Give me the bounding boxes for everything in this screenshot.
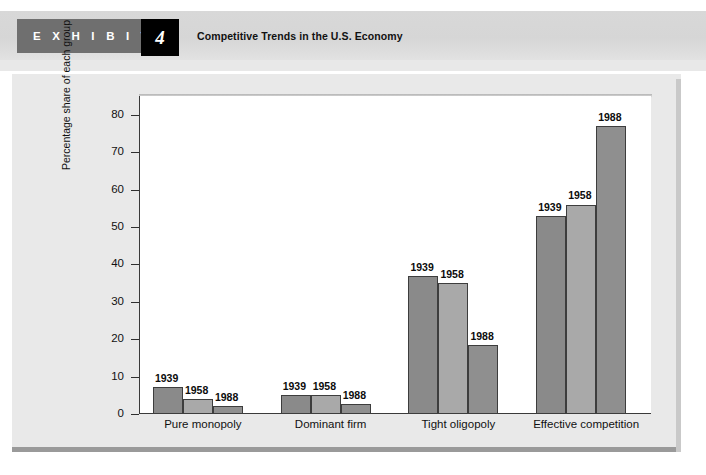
bar-value-label: 1988 <box>598 111 621 123</box>
y-axis-tick-label: 50 <box>96 220 124 232</box>
y-axis-tick-label: 30 <box>96 295 124 307</box>
bar-tight-oligopoly-1958 <box>438 283 468 414</box>
y-axis-tick <box>131 302 139 303</box>
bar-value-label: 1939 <box>283 380 306 392</box>
exhibit-title: Competitive Trends in the U.S. Economy <box>197 30 403 42</box>
bar-pure-monopoly-1939 <box>153 387 183 414</box>
x-axis-categories: Pure monopolyDominant firmTight oligopol… <box>139 418 651 438</box>
bar-dominant-firm-1939 <box>281 395 311 414</box>
y-axis-tick-label: 70 <box>96 145 124 157</box>
bar-value-label: 1958 <box>313 380 336 392</box>
bar-value-label: 1988 <box>343 389 366 401</box>
y-axis-tick <box>131 115 139 116</box>
exhibit-page: E X H I B I T 4 Competitive Trends in th… <box>0 0 706 475</box>
bar-value-label: 1988 <box>470 330 493 342</box>
bar-value-label: 1939 <box>410 261 433 273</box>
y-axis-tick-label: 20 <box>96 332 124 344</box>
y-axis-tick <box>131 377 139 378</box>
header-band-lower <box>0 60 706 71</box>
y-axis-tick <box>131 414 139 415</box>
bar-value-label: 1958 <box>440 268 463 280</box>
y-axis-tick <box>131 152 139 153</box>
bar-pure-monopoly-1958 <box>183 399 213 414</box>
y-axis-tick <box>131 339 139 340</box>
panel-right-shadow <box>676 79 681 452</box>
bar-tight-oligopoly-1988 <box>468 345 498 414</box>
bar-value-label: 1939 <box>155 372 178 384</box>
bar-effective-competition-1939 <box>536 216 566 414</box>
x-axis-category-label: Tight oligopoly <box>395 418 523 430</box>
bar-pure-monopoly-1988 <box>213 406 243 414</box>
bar-value-label: 1958 <box>185 384 208 396</box>
panel-bottom-shadow <box>12 447 681 452</box>
y-axis-tick-label: 80 <box>96 108 124 120</box>
y-axis-title: Percentage share of each group <box>60 0 72 170</box>
x-axis-category-label: Dominant firm <box>267 418 395 430</box>
bar-effective-competition-1958 <box>566 205 596 415</box>
x-axis-category-label: Pure monopoly <box>139 418 267 430</box>
bar-value-label: 1939 <box>538 201 561 213</box>
bar-dominant-firm-1988 <box>341 404 371 414</box>
bar-dominant-firm-1958 <box>311 395 341 414</box>
exhibit-kicker-label: E X H I B I T <box>29 30 152 42</box>
y-axis-tick-label: 60 <box>96 183 124 195</box>
exhibit-number-badge: 4 <box>141 19 179 56</box>
y-axis-tick-label: 40 <box>96 257 124 269</box>
y-axis-tick <box>131 264 139 265</box>
exhibit-number-label: 4 <box>155 27 165 49</box>
bar-value-label: 1958 <box>568 189 591 201</box>
bar-value-label: 1988 <box>215 391 238 403</box>
y-axis-tick-label: 0 <box>96 407 124 419</box>
x-axis-category-label: Effective competition <box>522 418 650 430</box>
bar-effective-competition-1988 <box>596 126 626 414</box>
bar-tight-oligopoly-1939 <box>408 276 438 414</box>
y-axis-tick <box>131 190 139 191</box>
y-axis-tick <box>131 227 139 228</box>
bars-layer: 1939195819881939195819881939195819881939… <box>140 96 651 414</box>
y-axis-tick-label: 10 <box>96 370 124 382</box>
